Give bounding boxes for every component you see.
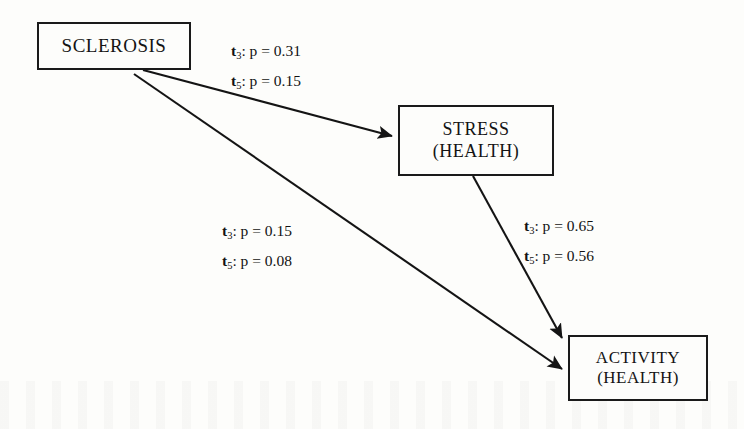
p-value-text: : p = 0.31 <box>241 42 301 59</box>
node-sclerosis: SCLEROSIS <box>37 22 191 70</box>
node-stress-label-primary: STRESS <box>442 119 509 140</box>
edge-label-row: t5: p = 0.15 <box>231 68 301 98</box>
edge-label-sclerosis-to-stress: t3: p = 0.31 t5: p = 0.15 <box>231 38 301 98</box>
p-value-text: : p = 0.15 <box>241 72 301 89</box>
node-activity-label-secondary: (HEALTH) <box>597 368 679 388</box>
node-activity-label-primary: ACTIVITY <box>596 348 680 368</box>
edge-label-row: t5: p = 0.08 <box>222 248 292 278</box>
edge-label-stress-to-activity: t3: p = 0.65 t5: p = 0.56 <box>524 213 594 273</box>
node-stress-label-secondary: (HEALTH) <box>433 141 519 162</box>
path-diagram: SCLEROSIS STRESS (HEALTH) ACTIVITY (HEAL… <box>0 0 744 429</box>
p-value-text: : p = 0.56 <box>534 247 594 264</box>
node-activity: ACTIVITY (HEALTH) <box>568 335 708 401</box>
p-value-text: : p = 0.08 <box>232 252 292 269</box>
edge-label-row: t3: p = 0.15 <box>222 218 292 248</box>
edge-label-row: t5: p = 0.56 <box>524 243 594 273</box>
p-value-text: : p = 0.65 <box>534 217 594 234</box>
edge-label-row: t3: p = 0.31 <box>231 38 301 68</box>
node-stress: STRESS (HEALTH) <box>398 105 554 176</box>
edge-label-row: t3: p = 0.65 <box>524 213 594 243</box>
edge-label-sclerosis-to-activity: t3: p = 0.15 t5: p = 0.08 <box>222 218 292 278</box>
p-value-text: : p = 0.15 <box>232 222 292 239</box>
node-sclerosis-label: SCLEROSIS <box>62 35 167 57</box>
